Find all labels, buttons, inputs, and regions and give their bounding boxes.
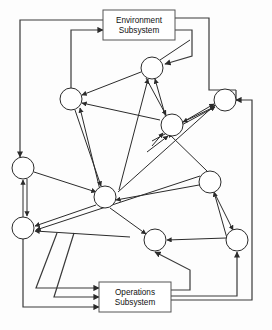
node-n5[interactable] [12, 157, 34, 179]
edge-long-diagonal-left [36, 176, 200, 230]
diagram-svg: Environment Subsystem Operations Subsyst… [0, 0, 272, 330]
edge-lower-left-to-ops-1 [36, 233, 99, 288]
edge-n9-to-n8 [35, 231, 130, 237]
environment-subsystem-label-line2: Subsystem [119, 26, 160, 35]
edge-n5-to-n7 [34, 172, 96, 192]
edge-n6-to-n7 [116, 185, 199, 200]
edge-env-to-n5 [20, 20, 103, 157]
edge-n7-to-n9 [110, 208, 146, 234]
edge-n7-to-n2 [80, 108, 100, 190]
operations-subsystem-label-line2: Subsystem [115, 298, 156, 307]
edge-n10-to-n9 [167, 238, 226, 240]
node-n7[interactable] [94, 186, 116, 208]
node-n4[interactable] [161, 114, 183, 136]
edge-env-right-out [175, 18, 236, 90]
edge-n1-to-n2 [82, 72, 141, 95]
node-n9[interactable] [144, 229, 166, 251]
node-n3[interactable] [214, 89, 236, 111]
node-n8[interactable] [12, 217, 34, 239]
node-n1[interactable] [141, 57, 163, 79]
edge-n6-to-n4 [168, 133, 207, 171]
operations-subsystem-box[interactable]: Operations Subsystem [99, 282, 171, 312]
edge-ops-to-n3 [171, 100, 252, 300]
edge-n2-to-n7 [75, 110, 101, 186]
environment-subsystem-box[interactable]: Environment Subsystem [103, 10, 175, 40]
operations-subsystem-label-line1: Operations [115, 288, 155, 297]
node-n2[interactable] [60, 88, 82, 110]
node-n6[interactable] [199, 171, 221, 193]
edge-n2-to-env [71, 30, 103, 88]
edge-n7-to-n1 [119, 79, 148, 190]
routed-feedback-edges [20, 18, 252, 307]
edge-n1-upper-right-tail [160, 40, 190, 60]
edge-n7-to-n8 [35, 205, 96, 226]
diagram-canvas: Environment Subsystem Operations Subsyst… [0, 0, 272, 330]
node-edges [23, 40, 233, 249]
environment-subsystem-label-line1: Environment [116, 16, 163, 25]
node-n10[interactable] [226, 229, 248, 251]
edge-n4-to-n2 [82, 103, 160, 120]
